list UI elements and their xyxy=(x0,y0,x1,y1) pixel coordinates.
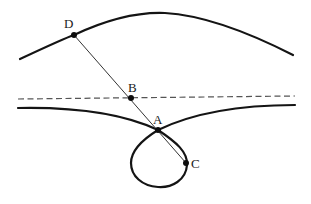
lower-curve-left xyxy=(18,108,158,130)
lower-curve-right xyxy=(158,105,295,130)
diagram-canvas: D B A C xyxy=(0,0,311,204)
label-c: C xyxy=(191,156,200,171)
label-a: A xyxy=(153,112,163,127)
loop xyxy=(131,130,187,187)
point-a xyxy=(155,127,161,133)
point-d xyxy=(71,32,77,38)
point-b xyxy=(128,95,134,101)
upper-curve xyxy=(20,13,293,59)
dashed-line xyxy=(18,96,295,99)
label-b: B xyxy=(128,80,137,95)
point-c xyxy=(183,160,189,166)
label-d: D xyxy=(64,16,73,31)
